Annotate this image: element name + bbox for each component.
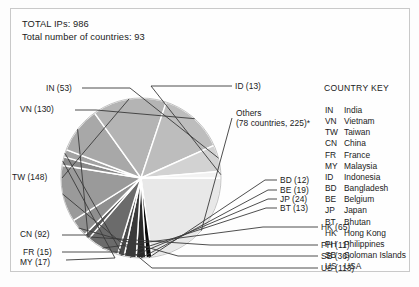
- callout-tw: TW (148): [12, 172, 47, 182]
- country-key-row: FRFrance: [325, 150, 406, 161]
- country-key-code: BE: [325, 194, 344, 205]
- callout-id: ID (13): [235, 81, 261, 91]
- callout-my: MY (17): [20, 257, 50, 267]
- country-key-row: VNVietnam: [325, 116, 406, 127]
- callout-others: Others(78 countries, 225)*: [236, 108, 310, 129]
- callout-vn: VN (130): [20, 104, 54, 114]
- country-key-code: JP: [325, 205, 344, 216]
- country-key-code: TW: [325, 127, 344, 138]
- country-key-name: Malaysia: [344, 161, 377, 172]
- country-key-row: MYMalaysia: [325, 161, 406, 172]
- country-key-code: BD: [325, 183, 344, 194]
- callout-us: US (113): [321, 263, 354, 273]
- country-key-row: BEBelgium: [325, 194, 406, 205]
- country-key-name: Philippines: [344, 239, 385, 250]
- callout-others-line2: (78 countries, 225)*: [236, 118, 310, 128]
- country-key-code: ID: [325, 172, 344, 183]
- callout-bt: BT (13): [280, 203, 308, 213]
- country-key-name: Vietnam: [344, 116, 375, 127]
- callout-bd: BD (12): [280, 175, 309, 185]
- country-key-name: Hong Kong: [344, 228, 386, 239]
- country-key-name: India: [344, 105, 362, 116]
- country-key-name: China: [344, 138, 366, 149]
- country-key-name: Taiwan: [344, 127, 370, 138]
- country-key-name: Japan: [344, 205, 367, 216]
- callout-fr: FR (15): [23, 247, 52, 257]
- callout-cn: CN (92): [20, 229, 50, 239]
- country-key-name: Belgium: [344, 194, 374, 205]
- country-key-row: TWTaiwan: [325, 127, 406, 138]
- callout-sb: SB (36): [321, 251, 350, 261]
- callout-ph: PH (11): [321, 240, 350, 250]
- callout-hk: HK (65): [321, 222, 350, 232]
- country-key-code: CN: [325, 138, 344, 149]
- country-key-row: BDBangladesh: [325, 183, 406, 194]
- country-key-code: VN: [325, 116, 344, 127]
- chart-figure: TOTAL IPs: 986 Total number of countries…: [0, 0, 419, 287]
- country-key-row: JPJapan: [325, 205, 406, 216]
- country-key-row: INIndia: [325, 105, 406, 116]
- country-key-title: COUNTRY KEY: [324, 83, 389, 93]
- callout-others-line1: Others: [236, 108, 310, 118]
- country-key-name: Indonesia: [344, 172, 380, 183]
- country-key-name: Soloman Islands: [344, 250, 406, 261]
- country-key-code: IN: [325, 105, 344, 116]
- country-key-name: Bangladesh: [344, 183, 388, 194]
- country-key-name: France: [344, 150, 370, 161]
- country-key-row: CNChina: [325, 138, 406, 149]
- country-key-code: MY: [325, 161, 344, 172]
- country-key-code: FR: [325, 150, 344, 161]
- callout-in: IN (53): [46, 83, 72, 93]
- country-key-row: IDIndonesia: [325, 172, 406, 183]
